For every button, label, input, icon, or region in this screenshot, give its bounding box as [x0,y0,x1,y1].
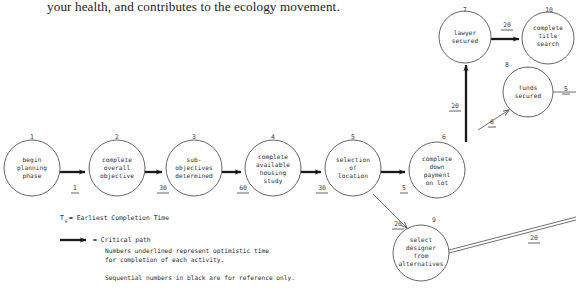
legend-te-symbol: T [60,214,64,222]
dur-6-7: 20 [449,102,461,111]
node-7-line-1: lawyer [454,29,477,37]
seq-6: 6 [442,133,446,141]
dur-5-9: 20 [392,220,404,229]
node-9-line-1: select [410,236,433,243]
node-5-line-3: location [338,172,368,179]
legend-te-text: = Earliest Completion Time [69,214,169,222]
node-1[interactable]: begin planning phase [4,140,60,196]
node-6[interactable]: complete down payment on lot [409,142,465,198]
svg-text:5: 5 [564,85,568,93]
node-3-line-3: determined [175,172,213,179]
seq-5: 5 [351,133,355,141]
dur-3-4: 60 [237,184,249,193]
node-1-line-1: begin [23,156,42,164]
dur-5-6: 5 [400,184,408,193]
svg-text:20: 20 [503,21,511,29]
node-2[interactable]: complete overall objective [89,140,145,196]
seq-1: 1 [30,133,34,141]
legend-te-subscript: E [65,219,68,224]
diagram-page: your health, and contributes to the ecol… [0,0,576,288]
svg-text:30: 30 [159,184,167,192]
svg-text:20: 20 [451,102,459,110]
node-6-line-4: on lot [426,179,449,186]
node-8[interactable]: funds secured [503,67,553,117]
node-2-line-2: overall [104,164,131,171]
dur-4-5: 30 [316,184,328,193]
node-9-line-2: designer [406,244,436,252]
node-7-line-2: secured [452,37,479,44]
svg-text:5: 5 [402,184,406,192]
dur-9-out: 20 [528,234,540,243]
node-4-line-4: study [264,177,283,185]
node-6-line-3: payment [424,171,451,179]
svg-text:6: 6 [490,118,494,126]
dur-2-3: 30 [157,184,169,193]
node-group: begin planning phase complete overall ob… [4,11,574,281]
node-9[interactable]: select designer from alternatives [393,225,449,281]
seq-4: 4 [271,133,275,141]
node-3-line-1: sub- [186,156,201,163]
legend: T E = Earliest Completion Time = Critica… [60,214,295,282]
node-2-line-1: complete [102,156,132,164]
node-8-line-2: secured [515,92,542,99]
duration-label-group: 1 30 60 30 5 20 [71,21,570,243]
node-10[interactable]: complete title search [522,12,574,64]
seq-8: 8 [505,61,509,69]
node-1-line-3: phase [23,172,42,180]
seq-9: 9 [432,216,436,224]
node-10-line-2: title [539,32,558,39]
node-9-line-3: from [413,252,428,259]
node-8-line-1: funds [519,84,538,91]
seq-2: 2 [115,133,119,141]
node-5-line-2: of [349,164,357,171]
svg-text:60: 60 [239,184,247,192]
node-4-line-1: complete [258,153,288,161]
node-9-line-4: alternatives [398,260,443,267]
edge-9-out-right [449,217,576,250]
svg-text:1: 1 [73,184,77,192]
legend-note-line-1: Numbers underlined represent optimistic … [105,247,269,255]
dur-8-out: 5 [562,85,570,94]
node-4-line-3: housing [260,169,287,177]
node-6-line-1: complete [422,155,452,163]
node-1-line-2: planning [17,164,47,172]
node-10-line-3: search [537,40,560,47]
node-3[interactable]: sub- objectives determined [166,140,222,196]
node-4-line-2: available [256,161,290,168]
node-5[interactable]: selection of location [325,140,381,196]
legend-note-line-3: Sequential numbers in black are for refe… [105,274,295,282]
legend-note-line-2: for completion of each activity. [105,256,224,264]
node-2-line-3: objective [100,172,134,180]
node-3-line-2: objectives [175,164,213,172]
dur-7-10: 20 [501,21,513,30]
pert-network-diagram: begin planning phase complete overall ob… [0,0,576,288]
node-6-line-2: down [429,163,444,170]
legend-critical-path-label: = Critical path [93,236,151,244]
seq-3: 3 [192,133,196,141]
seq-10: 10 [545,6,553,14]
node-10-line-1: complete [533,24,563,32]
node-4[interactable]: complete available housing study [245,140,301,196]
edge-5-9 [373,194,407,228]
dur-1-2: 1 [71,184,79,193]
node-5-line-1: selection [336,156,370,163]
seq-7: 7 [463,6,467,14]
edge-9-out-right-b [449,220,576,253]
svg-text:20: 20 [394,220,402,228]
svg-text:30: 30 [318,184,326,192]
node-7[interactable]: lawyer secured [439,11,491,63]
svg-text:20: 20 [530,234,538,242]
